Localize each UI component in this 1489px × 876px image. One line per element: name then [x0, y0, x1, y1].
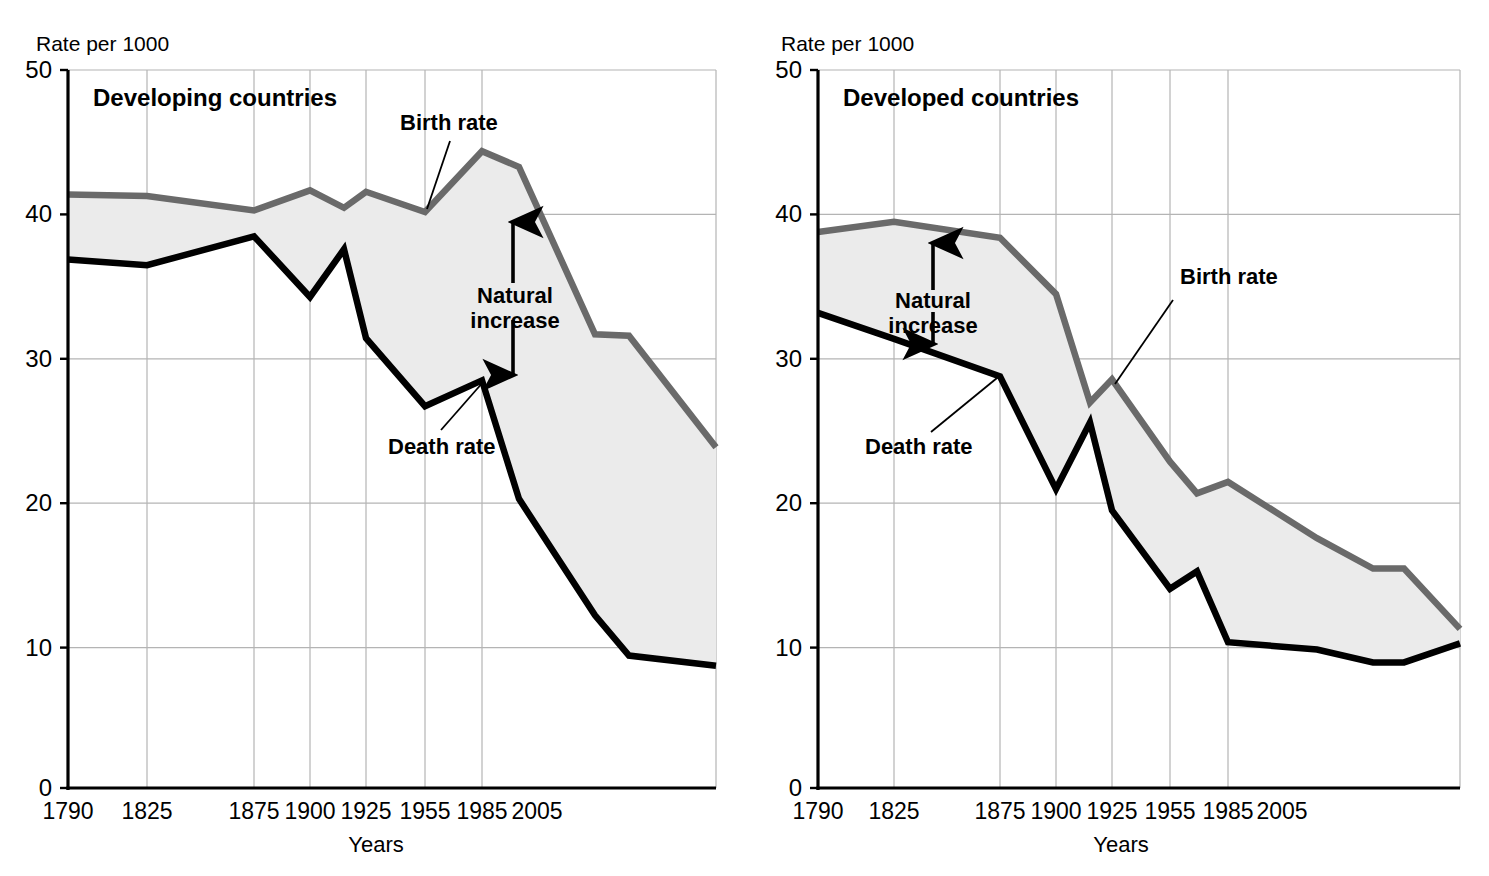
demographic-transition-figure: Rate per 1000	[0, 0, 1489, 876]
chart-svg-developing	[0, 0, 744, 876]
y-tick-label-30-right: 30	[758, 345, 802, 373]
x-tick-label-1790-left: 1790	[28, 798, 108, 825]
x-tick-label-2005-left: 2005	[497, 798, 577, 825]
y-axis-unit-label-right: Rate per 1000	[781, 32, 914, 56]
natural-increase-label-line1-right: Natural	[887, 288, 979, 313]
x-tick-label-1825-right: 1825	[854, 798, 934, 825]
natural-increase-label-left: Natural increase	[469, 283, 561, 334]
y-tick-label-50-right: 50	[758, 56, 802, 84]
y-tick-label-30-left: 30	[8, 345, 52, 373]
natural-increase-label-line1-left: Natural	[469, 283, 561, 308]
chart-svg-developed	[745, 0, 1489, 876]
y-tick-label-40-left: 40	[8, 200, 52, 228]
panel-title-developed: Developed countries	[843, 84, 1079, 112]
birth-rate-label-right: Birth rate	[1180, 264, 1278, 290]
y-tick-label-20-left: 20	[8, 489, 52, 517]
x-tick-label-1790-right: 1790	[778, 798, 858, 825]
natural-increase-label-line2-right: increase	[887, 313, 979, 338]
birth-rate-label-left: Birth rate	[400, 110, 498, 136]
death-rate-label-left: Death rate	[388, 434, 496, 460]
y-axis-unit-label-left: Rate per 1000	[36, 32, 169, 56]
x-axis-title-right: Years	[1051, 832, 1191, 858]
x-tick-label-2005-right: 2005	[1242, 798, 1322, 825]
x-axis-title-left: Years	[306, 832, 446, 858]
death-rate-label-right: Death rate	[865, 434, 973, 460]
chart-panel-developed: Rate per 1000	[745, 0, 1489, 876]
y-tick-label-10-right: 10	[758, 634, 802, 662]
natural-increase-label-right: Natural increase	[887, 288, 979, 339]
panel-title-developing: Developing countries	[93, 84, 337, 112]
y-tick-label-20-right: 20	[758, 489, 802, 517]
chart-panel-developing: Rate per 1000	[0, 0, 744, 876]
x-tick-label-1825-left: 1825	[107, 798, 187, 825]
y-tick-label-10-left: 10	[8, 634, 52, 662]
y-tick-label-50-left: 50	[8, 56, 52, 84]
y-tick-label-40-right: 40	[758, 200, 802, 228]
natural-increase-label-line2-left: increase	[469, 308, 561, 333]
